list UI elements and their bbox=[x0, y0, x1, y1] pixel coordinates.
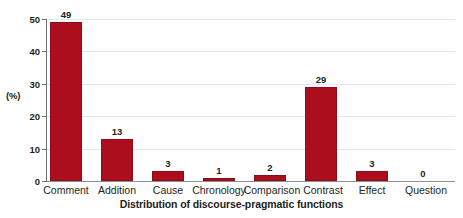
bar-value-comparison: 2 bbox=[267, 163, 272, 173]
bar-chart-figure: (%) 50 40 30 20 10 0 49 13 3 1 bbox=[0, 0, 463, 218]
bar-addition[interactable] bbox=[101, 139, 133, 181]
x-label-cause: Cause bbox=[153, 183, 183, 197]
bar-value-contrast: 29 bbox=[316, 75, 327, 85]
bar-comment[interactable] bbox=[50, 22, 82, 181]
bar-cause[interactable] bbox=[152, 171, 184, 181]
y-tick-mark-0 bbox=[42, 181, 46, 182]
bar-value-addition: 13 bbox=[112, 127, 123, 137]
bar-value-comment: 49 bbox=[61, 10, 72, 20]
bar-group-contrast: 29 bbox=[305, 19, 337, 181]
bar-effect[interactable] bbox=[356, 171, 388, 181]
bar-value-effect: 3 bbox=[369, 159, 374, 169]
bar-group-cause: 3 bbox=[152, 19, 184, 181]
y-tick-label-50: 50 bbox=[6, 14, 40, 25]
x-axis-baseline bbox=[46, 181, 455, 182]
bars-layer: 49 13 3 1 2 29 3 0 bbox=[46, 19, 455, 181]
y-axis-unit-label: (%) bbox=[6, 90, 20, 101]
y-tick-label-30: 30 bbox=[6, 79, 40, 90]
bar-group-chronology: 1 bbox=[203, 19, 235, 181]
bar-value-question: 0 bbox=[420, 169, 425, 179]
x-axis-title: Distribution of discourse-pragmatic func… bbox=[0, 198, 463, 210]
x-label-comparison: Comparison bbox=[244, 183, 301, 197]
x-label-chronology: Chronology bbox=[192, 183, 246, 197]
x-label-addition: Addition bbox=[98, 183, 136, 197]
x-label-contrast: Contrast bbox=[303, 183, 343, 197]
y-tick-label-20: 20 bbox=[6, 111, 40, 122]
bar-group-comment: 49 bbox=[50, 19, 82, 181]
x-label-question: Question bbox=[405, 183, 447, 197]
x-axis-category-labels: Comment Addition Cause Chronology Compar… bbox=[46, 183, 455, 199]
bar-value-chronology: 1 bbox=[216, 166, 221, 176]
y-tick-label-0: 0 bbox=[6, 176, 40, 187]
x-label-comment: Comment bbox=[43, 183, 89, 197]
bar-group-question: 0 bbox=[407, 19, 439, 181]
bar-chronology[interactable] bbox=[203, 178, 235, 181]
bar-value-cause: 3 bbox=[165, 159, 170, 169]
bar-comparison[interactable] bbox=[254, 175, 286, 181]
bar-contrast[interactable] bbox=[305, 87, 337, 181]
y-tick-label-40: 40 bbox=[6, 46, 40, 57]
bar-group-addition: 13 bbox=[101, 19, 133, 181]
x-label-effect: Effect bbox=[359, 183, 386, 197]
bar-group-effect: 3 bbox=[356, 19, 388, 181]
y-tick-label-10: 10 bbox=[6, 144, 40, 155]
bar-group-comparison: 2 bbox=[254, 19, 286, 181]
